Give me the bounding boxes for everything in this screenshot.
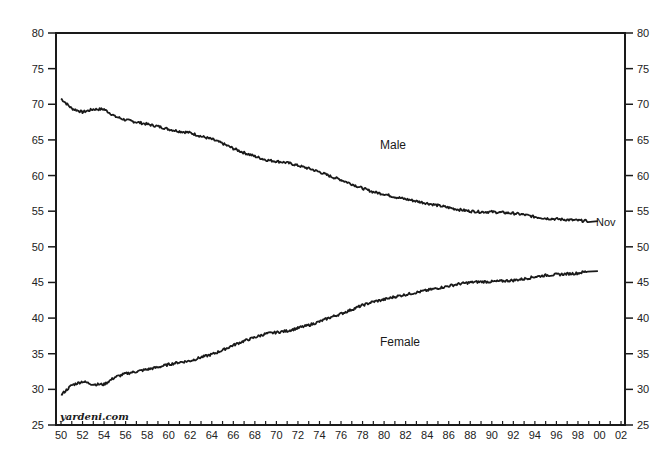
x-tick-label: 96 xyxy=(550,429,562,441)
x-tick-label: 02 xyxy=(615,429,627,441)
y-tick-label: 70 xyxy=(32,98,44,110)
x-tick-label: 66 xyxy=(227,429,239,441)
x-tick-label: 86 xyxy=(443,429,455,441)
x-tick-label: 56 xyxy=(119,429,131,441)
y-tick-label: 80 xyxy=(637,27,649,39)
y-tick-label: 60 xyxy=(637,170,649,182)
y-tick-label: 50 xyxy=(32,241,44,253)
series-line-female xyxy=(61,271,598,395)
series-line-male xyxy=(61,99,598,223)
y-tick-label: 25 xyxy=(32,419,44,431)
source-watermark: yardeni.com xyxy=(59,411,129,422)
y-tick-label: 70 xyxy=(637,98,649,110)
female-series-label: Female xyxy=(380,335,420,349)
x-tick-label: 84 xyxy=(421,429,433,441)
y-tick-label: 55 xyxy=(32,205,44,217)
y-tick-label: 40 xyxy=(637,312,649,324)
last-point-label: Nov xyxy=(596,216,616,228)
x-tick-label: 64 xyxy=(206,429,218,441)
x-tick-label: 54 xyxy=(98,429,110,441)
x-tick-label: 50 xyxy=(55,429,67,441)
x-tick-label: 52 xyxy=(76,429,88,441)
x-tick-label: 72 xyxy=(292,429,304,441)
y-tick-label: 35 xyxy=(637,348,649,360)
x-tick-label: 78 xyxy=(356,429,368,441)
x-tick-label: 60 xyxy=(163,429,175,441)
male-series-label: Male xyxy=(380,138,406,152)
y-tick-label: 40 xyxy=(32,312,44,324)
y-tick-label: 50 xyxy=(637,241,649,253)
y-tick-label: 65 xyxy=(32,134,44,146)
x-tick-label: 88 xyxy=(464,429,476,441)
y-tick-label: 75 xyxy=(637,63,649,75)
y-tick-label: 60 xyxy=(32,170,44,182)
line-chart: 253035404550556065707580 253035404550556… xyxy=(0,0,672,461)
y-tick-label: 25 xyxy=(637,419,649,431)
x-tick-label: 80 xyxy=(378,429,390,441)
x-tick-label: 92 xyxy=(507,429,519,441)
y-axis-right: 253035404550556065707580 xyxy=(625,27,649,431)
x-tick-label: 94 xyxy=(529,429,541,441)
plot-frame xyxy=(56,33,625,425)
x-tick-label: 82 xyxy=(400,429,412,441)
x-tick-label: 98 xyxy=(572,429,584,441)
x-tick-label: 00 xyxy=(593,429,605,441)
x-tick-label: 68 xyxy=(249,429,261,441)
y-tick-label: 45 xyxy=(32,276,44,288)
series-lines xyxy=(61,99,598,395)
y-tick-label: 65 xyxy=(637,134,649,146)
x-tick-label: 62 xyxy=(184,429,196,441)
y-tick-label: 30 xyxy=(637,383,649,395)
x-tick-label: 90 xyxy=(486,429,498,441)
x-tick-label: 76 xyxy=(335,429,347,441)
y-tick-label: 75 xyxy=(32,63,44,75)
y-tick-label: 35 xyxy=(32,348,44,360)
y-tick-label: 45 xyxy=(637,276,649,288)
y-tick-label: 30 xyxy=(32,383,44,395)
x-tick-label: 58 xyxy=(141,429,153,441)
y-axis-left: 253035404550556065707580 xyxy=(32,27,56,431)
y-tick-label: 55 xyxy=(637,205,649,217)
x-tick-label: 70 xyxy=(270,429,282,441)
y-tick-label: 80 xyxy=(32,27,44,39)
x-tick-label: 74 xyxy=(313,429,325,441)
